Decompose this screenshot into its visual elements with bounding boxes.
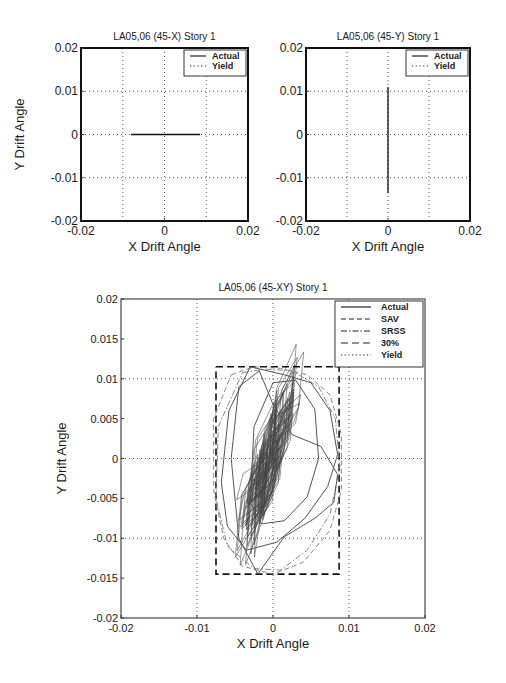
x-tick-label: 0 (385, 224, 392, 238)
legend-label: Yield (212, 61, 233, 71)
y-tick-label: 0 (112, 453, 118, 465)
x-tick-label: 0 (270, 622, 276, 634)
y-tick-label: -0.01 (93, 532, 118, 544)
y-axis-label: Y Drift Angle (54, 422, 69, 494)
x-tick-label: -0.02 (292, 224, 320, 238)
chart-title: LA05,06 (45-X) Story 1 (113, 31, 216, 42)
x-tick-label: 0.01 (338, 622, 359, 634)
y-tick-label: -0.01 (51, 171, 79, 185)
legend-label: Actual (434, 51, 462, 61)
legend: ActualYield (406, 50, 468, 76)
legend-label: SAV (381, 314, 399, 324)
legend-label: 30% (381, 338, 399, 348)
y-tick-label: 0.01 (55, 84, 79, 98)
chart-title: LA05,06 (45-XY) Story 1 (219, 282, 328, 293)
x-tick-label: 0.02 (414, 622, 435, 634)
y-tick-label: 0.02 (55, 41, 79, 55)
x-tick-label: 0.02 (236, 224, 260, 238)
legend: ActualYield (184, 50, 246, 76)
x-tick-label: 0.02 (458, 224, 482, 238)
x-tick-label: -0.02 (67, 224, 95, 238)
x-axis-label: X Drift Angle (237, 636, 309, 651)
y-tick-label: 0 (71, 128, 78, 142)
legend-label: Actual (212, 51, 240, 61)
chart-xy-drift: LA05,06 (45-XY) Story 10.020.0150.010.00… (54, 282, 436, 651)
y-tick-label: -0.005 (87, 492, 118, 504)
y-tick-label: 0.015 (90, 333, 118, 345)
figure: LA05,06 (45-X) Story 10.020.010-0.01-0.0… (0, 0, 506, 683)
chart-title: LA05,06 (45-Y) Story 1 (337, 31, 440, 42)
legend: ActualSAVSRSS30%Yield (335, 301, 423, 367)
y-tick-label: 0.02 (280, 41, 304, 55)
x-tick-label: -0.02 (108, 622, 133, 634)
legend-label: Yield (434, 61, 455, 71)
y-tick-label: 0.02 (97, 293, 118, 305)
y-tick-label: 0.005 (90, 413, 118, 425)
x-tick-label: 0 (161, 224, 168, 238)
y-tick-label: 0.01 (280, 84, 304, 98)
x-axis-label: X Drift Angle (352, 239, 424, 254)
legend-box (335, 301, 423, 367)
y-axis-label: Y Drift Angle (12, 98, 27, 170)
chart-y-drift: LA05,06 (45-Y) Story 10.020.010-0.01-0.0… (276, 31, 482, 254)
y-tick-label: 0 (296, 128, 303, 142)
legend-label: Yield (381, 350, 402, 360)
y-tick-label: -0.015 (87, 572, 118, 584)
legend-label: SRSS (381, 326, 406, 336)
y-tick-label: -0.01 (276, 171, 304, 185)
x-tick-label: -0.01 (184, 622, 209, 634)
chart-x-drift: LA05,06 (45-X) Story 10.020.010-0.01-0.0… (12, 31, 260, 254)
y-tick-label: 0.01 (97, 373, 118, 385)
x-axis-label: X Drift Angle (128, 239, 200, 254)
legend-label: Actual (381, 302, 409, 312)
